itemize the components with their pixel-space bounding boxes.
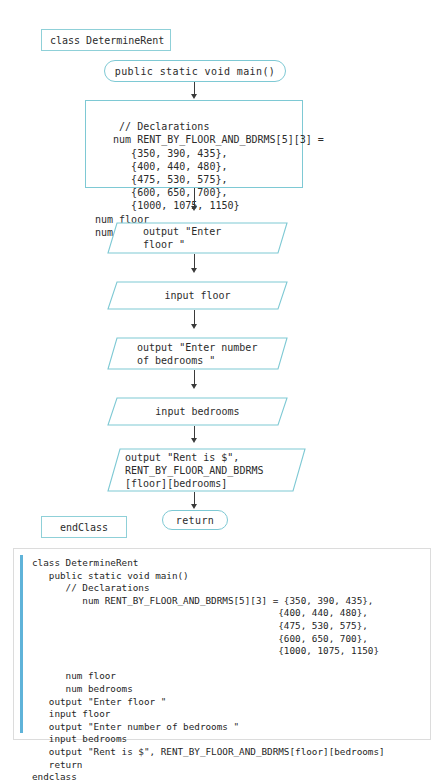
io-input-bedrooms: input bedrooms bbox=[107, 397, 288, 426]
end-class-label: endClass bbox=[60, 521, 108, 534]
io-output-enter-bedrooms-text: output "Enter number of bedrooms " bbox=[107, 337, 288, 370]
return-terminal: return bbox=[162, 510, 228, 530]
connector-declarations-to-output-floor bbox=[194, 188, 195, 208]
declarations-box: // Declarations num RENT_BY_FLOOR_AND_BD… bbox=[85, 100, 303, 188]
class-header-label: class DetermineRent bbox=[50, 34, 164, 47]
end-class-box: endClass bbox=[41, 516, 127, 538]
io-output-enter-bedrooms: output "Enter number of bedrooms " bbox=[107, 337, 288, 370]
io-input-bedrooms-text: input bedrooms bbox=[107, 397, 288, 426]
arrowhead-input-floor-to-output-bedrooms bbox=[191, 324, 197, 329]
io-output-enter-floor: output "Enter floor " bbox=[107, 222, 288, 254]
arrowhead-output-rent-to-return bbox=[191, 504, 197, 509]
arrowhead-declarations-to-output-floor bbox=[191, 206, 197, 211]
arrowhead-output-floor-to-input-floor bbox=[191, 268, 197, 273]
declarations-text: // Declarations num RENT_BY_FLOOR_AND_BD… bbox=[95, 121, 324, 238]
io-input-floor-text: input floor bbox=[107, 281, 288, 310]
code-accent-bar bbox=[20, 555, 23, 733]
code-listing-text: class DetermineRent public static void m… bbox=[32, 557, 424, 784]
main-terminal-label: public static void main() bbox=[115, 65, 276, 78]
io-output-rent: output "Rent is $", RENT_BY_FLOOR_AND_BD… bbox=[107, 448, 306, 492]
arrowhead-main-to-declarations bbox=[191, 94, 197, 99]
arrowhead-input-bedrooms-to-output-rent bbox=[191, 438, 197, 443]
main-terminal: public static void main() bbox=[104, 60, 286, 82]
return-terminal-label: return bbox=[176, 514, 215, 527]
class-header-box: class DetermineRent bbox=[41, 29, 171, 51]
code-listing-panel: class DetermineRent public static void m… bbox=[13, 548, 431, 740]
io-output-enter-floor-text: output "Enter floor " bbox=[107, 222, 288, 254]
io-input-floor: input floor bbox=[107, 281, 288, 310]
arrowhead-output-bedrooms-to-input-bedrooms bbox=[191, 384, 197, 389]
io-output-rent-text: output "Rent is $", RENT_BY_FLOOR_AND_BD… bbox=[107, 448, 306, 492]
